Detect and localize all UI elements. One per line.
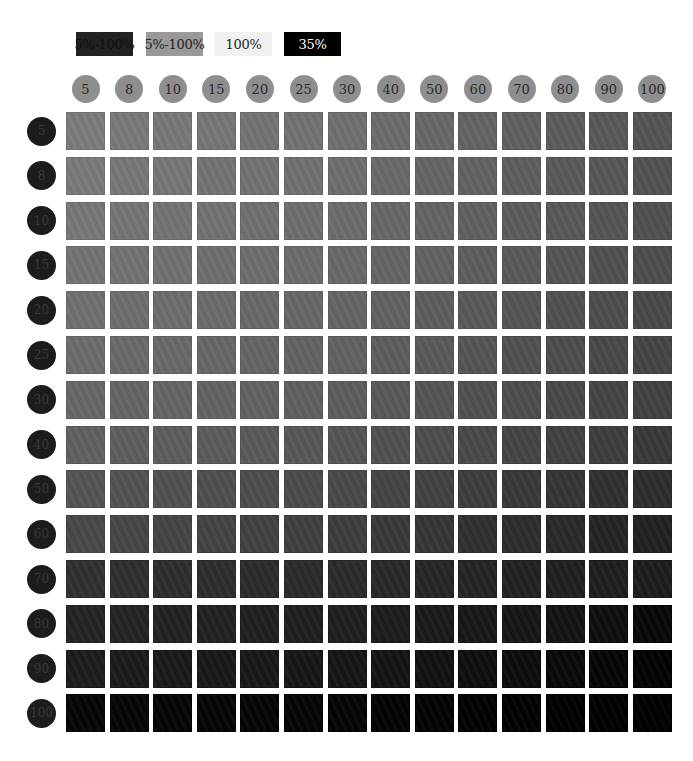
legend-item: 5%-100%: [76, 32, 133, 56]
column-label: 5: [72, 75, 100, 103]
swatch-cell: [546, 650, 585, 688]
swatch-cell: [415, 381, 454, 419]
swatch-cell: [415, 202, 454, 240]
swatch-cell: [66, 694, 105, 732]
swatch-cell: [240, 560, 279, 598]
column-label: 8: [115, 75, 143, 103]
swatch-cell: [546, 112, 585, 150]
swatch-cell: [240, 470, 279, 508]
swatch-cell: [371, 605, 410, 643]
swatch-cell: [589, 515, 628, 553]
legend-item: 35%: [284, 32, 341, 56]
swatch-cell: [633, 336, 672, 374]
swatch-cell: [546, 426, 585, 464]
swatch-cell: [589, 157, 628, 195]
swatch-cell: [589, 560, 628, 598]
swatch-cell: [371, 112, 410, 150]
swatch-cell: [458, 560, 497, 598]
swatch-cell: [371, 694, 410, 732]
swatch-cell: [458, 246, 497, 284]
swatch-cell: [110, 694, 149, 732]
swatch-cell: [546, 336, 585, 374]
swatch-cell: [240, 381, 279, 419]
column-label: 90: [595, 75, 623, 103]
swatch-cell: [589, 650, 628, 688]
swatch-cell: [546, 202, 585, 240]
swatch-cell: [371, 202, 410, 240]
swatch-cell: [633, 426, 672, 464]
swatch-cell: [66, 605, 105, 643]
swatch-cell: [633, 291, 672, 329]
swatch-cell: [197, 470, 236, 508]
swatch-cell: [589, 112, 628, 150]
swatch-cell: [110, 246, 149, 284]
swatch-cell: [633, 112, 672, 150]
column-label: 20: [246, 75, 274, 103]
swatch-cell: [415, 605, 454, 643]
row-label: 5: [27, 117, 56, 146]
swatch-cell: [197, 650, 236, 688]
swatch-cell: [240, 515, 279, 553]
column-label: 100: [638, 75, 666, 103]
swatch-cell: [415, 515, 454, 553]
swatch-cell: [328, 291, 367, 329]
swatch-cell: [371, 381, 410, 419]
swatch-cell: [66, 426, 105, 464]
swatch-cell: [284, 202, 323, 240]
swatch-cell: [66, 202, 105, 240]
swatch-cell: [153, 157, 192, 195]
column-label: 30: [333, 75, 361, 103]
swatch-cell: [415, 560, 454, 598]
row-label: 30: [27, 385, 56, 414]
swatch-cell: [502, 605, 541, 643]
swatch-cell: [197, 112, 236, 150]
swatch-cell: [153, 112, 192, 150]
swatch-cell: [110, 605, 149, 643]
swatch-cell: [502, 694, 541, 732]
swatch-cell: [240, 650, 279, 688]
row-label: 90: [27, 654, 56, 683]
swatch-cell: [371, 246, 410, 284]
swatch-cell: [502, 560, 541, 598]
swatch-cell: [197, 291, 236, 329]
swatch-cell: [153, 650, 192, 688]
swatch-cell: [153, 381, 192, 419]
swatch-cell: [589, 381, 628, 419]
row-label: 80: [27, 609, 56, 638]
swatch-cell: [328, 694, 367, 732]
swatch-cell: [328, 112, 367, 150]
row-label: 100: [27, 699, 56, 728]
row-label: 40: [27, 430, 56, 459]
column-label: 70: [508, 75, 536, 103]
swatch-cell: [415, 157, 454, 195]
swatch-cell: [589, 246, 628, 284]
swatch-cell: [633, 202, 672, 240]
swatch-cell: [546, 381, 585, 419]
swatch-cell: [328, 650, 367, 688]
swatch-cell: [153, 560, 192, 598]
row-label: 20: [27, 296, 56, 325]
swatch-cell: [240, 426, 279, 464]
column-label: 15: [202, 75, 230, 103]
swatch-cell: [284, 515, 323, 553]
swatch-cell: [633, 515, 672, 553]
swatch-cell: [371, 426, 410, 464]
swatch-cell: [240, 694, 279, 732]
swatch-cell: [153, 246, 192, 284]
swatch-cell: [66, 336, 105, 374]
swatch-cell: [328, 426, 367, 464]
swatch-cell: [197, 694, 236, 732]
swatch-cell: [110, 381, 149, 419]
swatch-cell: [458, 157, 497, 195]
swatch-cell: [197, 515, 236, 553]
swatch-cell: [546, 605, 585, 643]
swatch-cell: [502, 381, 541, 419]
swatch-cell: [371, 560, 410, 598]
swatch-cell: [284, 246, 323, 284]
swatch-cell: [458, 202, 497, 240]
swatch-cell: [66, 470, 105, 508]
column-label: 25: [290, 75, 318, 103]
swatch-cell: [415, 336, 454, 374]
swatch-cell: [546, 246, 585, 284]
swatch-cell: [458, 381, 497, 419]
